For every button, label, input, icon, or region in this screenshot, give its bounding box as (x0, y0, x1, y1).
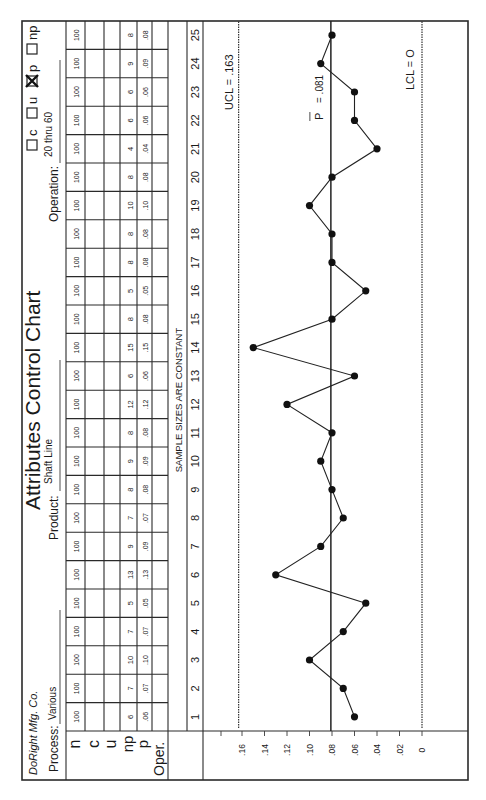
cell-n[interactable]: 100 (73, 711, 80, 723)
cell-np[interactable]: 8 (126, 260, 135, 264)
cell-n[interactable]: 100 (73, 398, 80, 410)
chart-type-np-checkbox[interactable]: np (25, 26, 40, 54)
cell-n[interactable]: 100 (73, 114, 80, 126)
cell-np[interactable]: 5 (126, 601, 135, 605)
data-point[interactable] (373, 145, 380, 152)
cell-np[interactable]: 10 (126, 656, 135, 664)
data-point[interactable] (328, 259, 335, 266)
cell-np[interactable]: 12 (126, 400, 135, 408)
cell-p[interactable]: .13 (142, 570, 149, 580)
data-point[interactable] (306, 202, 313, 209)
chart-type-p-checkbox[interactable]: p (25, 65, 40, 87)
cell-p[interactable]: .08 (142, 30, 149, 40)
data-point[interactable] (328, 429, 335, 436)
cell-np[interactable]: 6 (126, 374, 135, 378)
cell-np[interactable]: 6 (126, 90, 135, 94)
cell-np[interactable]: 8 (126, 232, 135, 236)
data-point[interactable] (328, 486, 335, 493)
cell-p[interactable]: .07 (142, 627, 149, 637)
product-value[interactable]: Shaft Line (43, 439, 54, 484)
cell-np[interactable]: 7 (126, 630, 135, 634)
data-point[interactable] (340, 514, 347, 521)
cell-np[interactable]: 8 (126, 317, 135, 321)
cell-np[interactable]: 9 (126, 544, 135, 548)
operation-value[interactable]: 20 thru 60 (43, 112, 54, 157)
cell-p[interactable]: .10 (142, 655, 149, 665)
cell-n[interactable]: 100 (73, 512, 80, 524)
cell-np[interactable]: 9 (126, 459, 135, 463)
data-point[interactable] (340, 628, 347, 635)
data-point[interactable] (250, 344, 257, 351)
data-point[interactable] (362, 600, 369, 607)
cell-n[interactable]: 100 (73, 626, 80, 638)
cell-np[interactable]: 8 (126, 488, 135, 492)
cell-p[interactable]: .04 (142, 144, 149, 154)
cell-p[interactable]: .09 (142, 541, 149, 551)
cell-p[interactable]: .08 (142, 314, 149, 324)
data-point[interactable] (317, 60, 324, 67)
cell-np[interactable]: 15 (126, 343, 135, 351)
cell-np[interactable]: 8 (126, 33, 135, 37)
cell-p[interactable]: .08 (142, 257, 149, 267)
cell-n[interactable]: 100 (73, 597, 80, 609)
cell-p[interactable]: .15 (142, 343, 149, 353)
cell-n[interactable]: 100 (73, 256, 80, 268)
process-value[interactable]: Various (47, 687, 58, 720)
data-point[interactable] (351, 713, 358, 720)
cell-np[interactable]: 9 (126, 62, 135, 66)
cell-n[interactable]: 100 (73, 455, 80, 467)
cell-n[interactable]: 100 (73, 228, 80, 240)
cell-p[interactable]: .07 (142, 513, 149, 523)
cell-p[interactable]: .06 (142, 87, 149, 97)
cell-np[interactable]: 7 (126, 516, 135, 520)
cell-n[interactable]: 100 (73, 200, 80, 212)
cell-n[interactable]: 100 (73, 29, 80, 41)
cell-np[interactable]: 6 (126, 715, 135, 719)
chart-type-u-checkbox[interactable]: u (25, 97, 40, 118)
data-point[interactable] (272, 571, 279, 578)
data-point[interactable] (328, 174, 335, 181)
data-point[interactable] (351, 372, 358, 379)
data-point[interactable] (351, 117, 358, 124)
cell-p[interactable]: .08 (142, 485, 149, 495)
cell-n[interactable]: 100 (73, 143, 80, 155)
cell-n[interactable]: 100 (73, 58, 80, 70)
cell-p[interactable]: .06 (142, 115, 149, 125)
cell-p[interactable]: .08 (142, 229, 149, 239)
cell-p[interactable]: .09 (142, 59, 149, 69)
cell-p[interactable]: .09 (142, 456, 149, 466)
data-point[interactable] (328, 230, 335, 237)
data-point[interactable] (328, 316, 335, 323)
cell-n[interactable]: 100 (73, 313, 80, 325)
checkbox-box[interactable] (27, 44, 37, 54)
cell-np[interactable]: 7 (126, 686, 135, 690)
cell-n[interactable]: 100 (73, 342, 80, 354)
cell-n[interactable]: 100 (73, 171, 80, 183)
data-point[interactable] (362, 287, 369, 294)
cell-p[interactable]: .05 (142, 598, 149, 608)
data-point[interactable] (351, 88, 358, 95)
cell-np[interactable]: 4 (126, 147, 135, 151)
data-point[interactable] (283, 401, 290, 408)
chart-type-c-checkbox[interactable]: c (25, 129, 40, 150)
cell-p[interactable]: .06 (142, 371, 149, 381)
cell-n[interactable]: 100 (73, 682, 80, 694)
data-point[interactable] (340, 685, 347, 692)
cell-p[interactable]: .10 (142, 201, 149, 211)
cell-p[interactable]: .08 (142, 172, 149, 182)
cell-n[interactable]: 100 (73, 654, 80, 666)
data-point[interactable] (328, 32, 335, 39)
cell-np[interactable]: 6 (126, 118, 135, 122)
cell-p[interactable]: .06 (142, 712, 149, 722)
checkbox-box[interactable] (27, 108, 37, 118)
cell-n[interactable]: 100 (73, 427, 80, 439)
cell-n[interactable]: 100 (73, 370, 80, 382)
cell-n[interactable]: 100 (73, 569, 80, 581)
cell-n[interactable]: 100 (73, 484, 80, 496)
cell-p[interactable]: .12 (142, 399, 149, 409)
cell-p[interactable]: .08 (142, 428, 149, 438)
cell-np[interactable]: 13 (126, 571, 135, 579)
cell-np[interactable]: 10 (126, 201, 135, 209)
cell-n[interactable]: 100 (73, 86, 80, 98)
cell-p[interactable]: .05 (142, 286, 149, 296)
